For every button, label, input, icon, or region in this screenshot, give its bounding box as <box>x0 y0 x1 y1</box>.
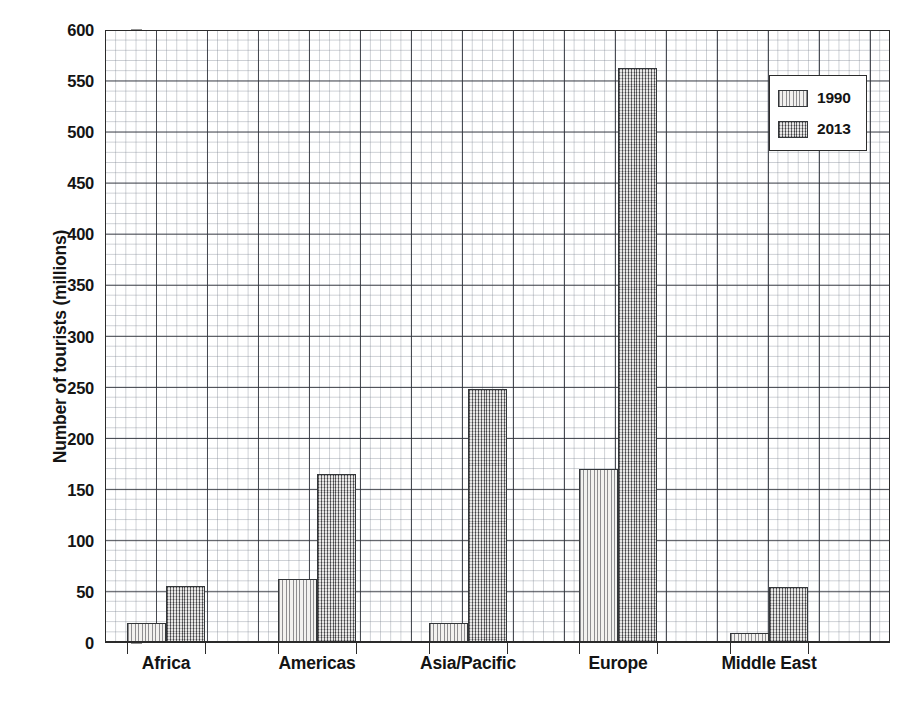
legend-label-2013: 2013 <box>817 120 851 138</box>
bar-chart: Number of tourists (millions) 0501001502… <box>0 0 904 701</box>
y-tick-label: 0 <box>36 634 94 653</box>
bar-europe-1990 <box>579 469 618 643</box>
legend-item-2013: 2013 <box>778 115 866 143</box>
bar-asia-pacific-1990 <box>429 623 468 643</box>
x-axis-label-europe: Europe <box>588 653 647 674</box>
bar-europe-2013 <box>618 68 657 643</box>
legend-label-1990: 1990 <box>817 89 851 107</box>
y-tick-label: 250 <box>36 378 94 397</box>
bar-middle-east-2013 <box>769 587 808 643</box>
x-axis-label-middle-east: Middle East <box>721 653 816 674</box>
x-axis-label-africa: Africa <box>142 653 190 674</box>
x-axis-label-asia-pacific: Asia/Pacific <box>420 653 516 674</box>
y-tick-label: 100 <box>36 531 94 550</box>
y-tick-label: 200 <box>36 429 94 448</box>
legend-item-1990: 1990 <box>778 84 866 112</box>
bar-asia-pacific-2013 <box>468 389 507 643</box>
bar-americas-1990 <box>278 579 317 643</box>
x-axis-labels: AfricaAmericasAsia/PacificEuropeMiddle E… <box>105 653 890 687</box>
y-tick-label: 500 <box>36 123 94 142</box>
y-tick-label: 600 <box>36 21 94 40</box>
y-axis-ticks: 050100150200250300350400450500550600 <box>36 0 94 701</box>
bar-africa-1990 <box>127 623 166 643</box>
y-tick-label: 50 <box>36 582 94 601</box>
x-axis-label-americas: Americas <box>278 653 355 674</box>
legend-swatch-1990 <box>778 90 808 107</box>
y-tick-label: 300 <box>36 327 94 346</box>
legend-swatch-2013 <box>778 121 808 138</box>
bar-middle-east-1990 <box>730 633 769 643</box>
bar-africa-2013 <box>166 586 205 643</box>
y-tick-label: 150 <box>36 480 94 499</box>
legend: 19902013 <box>769 75 867 151</box>
y-tick-label: 550 <box>36 72 94 91</box>
bar-americas-2013 <box>317 474 356 643</box>
y-tick-label: 450 <box>36 174 94 193</box>
y-tick-label: 400 <box>36 225 94 244</box>
y-tick-label: 350 <box>36 276 94 295</box>
